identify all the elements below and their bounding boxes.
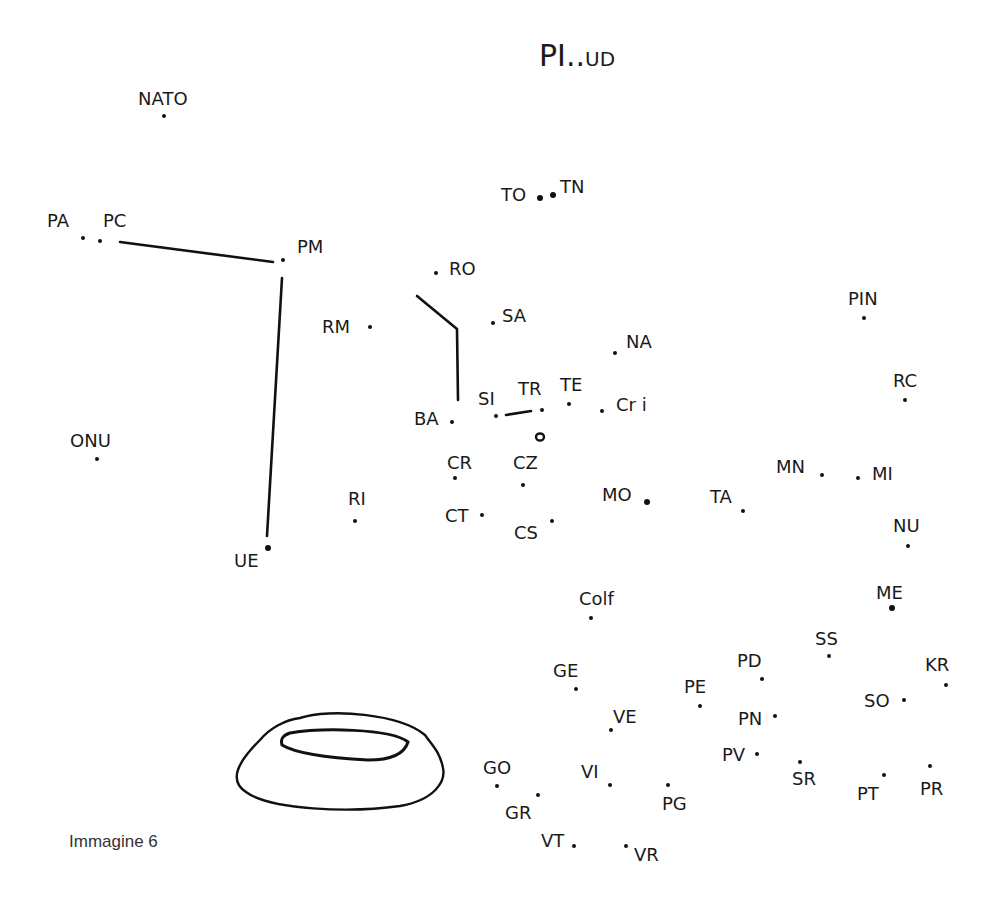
point-dot-me bbox=[889, 605, 895, 611]
point-label-so: SO bbox=[864, 692, 890, 710]
point-dot-mi bbox=[856, 476, 860, 480]
point-dot-rm bbox=[368, 325, 372, 329]
point-label-ss: SS bbox=[815, 630, 838, 648]
point-dot-sr bbox=[798, 760, 802, 764]
point-label-mo: MO bbox=[602, 486, 632, 504]
point-dot-tn bbox=[550, 192, 556, 198]
point-dot-pr bbox=[928, 764, 932, 768]
point-label-cr: CR bbox=[447, 454, 472, 472]
point-dot-pin bbox=[862, 316, 866, 320]
point-label-me: ME bbox=[876, 584, 903, 602]
point-dot-pe bbox=[698, 704, 702, 708]
point-label-rm: RM bbox=[322, 318, 350, 336]
point-label-te: TE bbox=[560, 376, 582, 394]
point-label-ue: UE bbox=[234, 552, 259, 570]
image-caption: Immagine 6 bbox=[69, 832, 158, 852]
point-label-nu: NU bbox=[893, 517, 920, 535]
point-dot-na bbox=[613, 351, 617, 355]
point-dot-mo bbox=[644, 499, 650, 505]
point-dot-colf bbox=[589, 616, 593, 620]
point-dot-ba bbox=[450, 420, 454, 424]
point-label-vr: VR bbox=[634, 846, 659, 864]
point-dot-ve bbox=[609, 728, 613, 732]
point-dot-ct bbox=[480, 513, 484, 517]
point-dot-te bbox=[567, 402, 571, 406]
point-label-colf: Colf bbox=[579, 590, 614, 608]
point-label-pin: PIN bbox=[848, 290, 878, 308]
point-label-cs: CS bbox=[514, 524, 538, 542]
point-dot-cr bbox=[453, 476, 457, 480]
point-label-pg: PG bbox=[662, 795, 687, 813]
point-dot-so bbox=[902, 698, 906, 702]
point-label-ba: BA bbox=[414, 410, 439, 428]
point-label-rc: RC bbox=[893, 372, 917, 390]
si-to-tr-line bbox=[506, 411, 531, 415]
title-main: PI bbox=[539, 38, 566, 73]
point-dot-sa bbox=[491, 321, 495, 325]
point-dot-vr bbox=[624, 844, 628, 848]
point-label-cz: CZ bbox=[513, 454, 538, 472]
point-dot-gr bbox=[536, 793, 540, 797]
point-dot-pd bbox=[760, 677, 764, 681]
point-label-pr: PR bbox=[920, 780, 943, 798]
point-dot-kr bbox=[944, 683, 948, 687]
point-dot-rc bbox=[903, 398, 907, 402]
point-label-mn: MN bbox=[776, 458, 805, 476]
point-label-pm: PM bbox=[297, 238, 323, 256]
point-dot-to bbox=[537, 195, 543, 201]
point-label-to: TO bbox=[501, 186, 526, 204]
point-dot-cs bbox=[550, 519, 554, 523]
point-label-ve: VE bbox=[613, 708, 637, 726]
point-label-na: NA bbox=[626, 333, 652, 351]
point-label-ta: TA bbox=[710, 488, 732, 506]
point-label-ro: RO bbox=[449, 260, 476, 278]
point-label-go: GO bbox=[483, 759, 511, 777]
point-label-vi: VI bbox=[581, 763, 599, 781]
point-label-cri: Cr i bbox=[616, 396, 647, 414]
point-label-kr: KR bbox=[925, 656, 949, 674]
point-label-pd: PD bbox=[737, 652, 762, 670]
point-dot-pg bbox=[666, 783, 670, 787]
point-dot-onu bbox=[95, 457, 99, 461]
point-dot-ss bbox=[827, 654, 831, 658]
point-label-ri: RI bbox=[348, 490, 366, 508]
small-ring-icon bbox=[536, 434, 544, 441]
point-dot-cri bbox=[600, 409, 604, 413]
ring-shape-outer bbox=[237, 713, 444, 809]
point-label-nato: NATO bbox=[138, 90, 188, 108]
point-label-gr: GR bbox=[505, 804, 531, 822]
point-dot-ro bbox=[434, 271, 438, 275]
point-dot-vt bbox=[572, 844, 576, 848]
dot-to-dot-canvas: PI..UD NATOPAPCPMTOTNROSARMPINNARCBASITR… bbox=[0, 0, 988, 898]
title-dots: .. bbox=[566, 38, 585, 73]
point-label-pt: PT bbox=[857, 785, 879, 803]
point-label-pc: PC bbox=[103, 212, 126, 230]
point-dot-nato bbox=[162, 114, 166, 118]
point-label-sr: SR bbox=[792, 770, 816, 788]
point-dot-ta bbox=[741, 509, 745, 513]
point-dot-tr bbox=[540, 408, 544, 412]
point-label-pn: PN bbox=[738, 710, 762, 728]
point-label-ct: CT bbox=[445, 507, 469, 525]
point-dot-go bbox=[495, 784, 499, 788]
point-label-si: SI bbox=[478, 390, 495, 408]
point-dot-si bbox=[494, 414, 498, 418]
point-label-pe: PE bbox=[684, 678, 706, 696]
point-dot-pm bbox=[281, 258, 285, 262]
pc-to-pm-line bbox=[120, 242, 273, 262]
point-dot-pc bbox=[98, 239, 102, 243]
point-dot-vi bbox=[608, 783, 612, 787]
point-dot-ge bbox=[574, 687, 578, 691]
title-sub: UD bbox=[585, 47, 615, 71]
point-label-vt: VT bbox=[541, 832, 564, 850]
ro-to-ba-line bbox=[417, 296, 458, 400]
point-dot-pa bbox=[81, 236, 85, 240]
point-dot-cz bbox=[521, 483, 525, 487]
point-label-tn: TN bbox=[560, 178, 584, 196]
puzzle-title: PI..UD bbox=[539, 38, 615, 73]
point-dot-pv bbox=[755, 752, 759, 756]
point-label-pa: PA bbox=[47, 212, 69, 230]
ring-shape-inner bbox=[281, 730, 408, 760]
point-dot-mn bbox=[820, 473, 824, 477]
point-dot-ue bbox=[265, 545, 271, 551]
